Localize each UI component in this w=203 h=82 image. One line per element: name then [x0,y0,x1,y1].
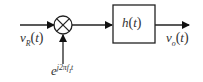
paren-close: ) [39,30,44,45]
paren-close: ) [184,30,189,45]
oscillator-exponent: j2πf [57,63,69,72]
oscillator-label: ej2πfIt [51,64,73,77]
output-signal-label: vo(t) [166,31,189,47]
filter-label: h(t) [122,16,141,30]
input-signal-label: vR(t) [20,31,44,47]
oscillator-exponent-tail: t [71,63,73,72]
mixer-icon [54,16,72,34]
block-diagram: vR(t) h(t) vo(t) ej2πfIt [0,0,203,82]
paren-close: ) [137,15,142,30]
